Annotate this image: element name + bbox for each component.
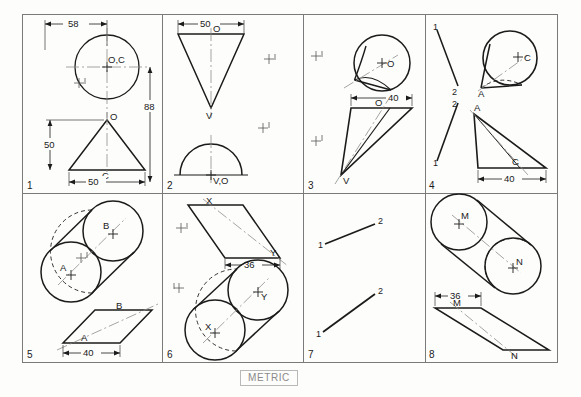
panel6-label-X-top: X — [206, 195, 213, 206]
panel-number-7: 7 — [308, 349, 314, 360]
panel4-label-1-bottom: 1 — [433, 158, 438, 168]
panel1-label-OC: O,C — [108, 54, 125, 65]
dim-50-vertical-text: 50 — [44, 139, 55, 150]
drawing-sheet: 1 2 3 4 5 6 7 8 58 O,C — [0, 0, 581, 397]
panel3-label-O-top: O — [387, 58, 394, 69]
panel4-label-C-top: C — [524, 52, 531, 63]
metric-label: METRIC — [240, 370, 298, 386]
panel7-label-1-top: 1 — [318, 240, 323, 250]
panel4-label-A-top: A — [478, 88, 485, 99]
panel2-label-V: V — [206, 110, 213, 121]
panel4-label-A-front: A — [474, 102, 481, 113]
panel8-label-M-front: M — [453, 297, 461, 308]
panel2-label-VO: V,O — [213, 175, 229, 186]
panel4-label-C-front: C — [512, 156, 519, 167]
dim-50-base-text: 50 — [88, 176, 99, 187]
panel7-label-1-bottom: 1 — [316, 329, 321, 339]
panel8-label-N-top: N — [516, 256, 523, 267]
panel6-label-X-front: X — [205, 321, 212, 332]
panel5-label-B-front: B — [116, 300, 122, 311]
dim-88-text: 88 — [144, 101, 155, 112]
panel5-label-A-front: A — [81, 332, 88, 343]
panel1-label-O: O — [110, 111, 117, 122]
panel8-label-M-top: M — [461, 210, 469, 221]
panel-number-6: 6 — [167, 349, 173, 360]
dim-40-p3-text: 40 — [388, 92, 399, 103]
panel5-label-B-top: B — [103, 220, 109, 231]
dim-58-text: 58 — [68, 18, 79, 29]
panel6-label-Y-front: Y — [261, 291, 268, 302]
panel-number-1: 1 — [27, 180, 33, 191]
dim-50-p2-text: 50 — [200, 18, 211, 29]
panel3-label-V: V — [343, 175, 350, 186]
panel8-label-N-front: N — [511, 350, 518, 361]
panel-number-5: 5 — [27, 349, 33, 360]
panel-number-8: 8 — [429, 349, 435, 360]
dim-40-p5-text: 40 — [83, 347, 94, 358]
panel4-label-2-bottom: 2 — [452, 99, 457, 109]
panel7-label-2-bottom: 2 — [378, 286, 383, 296]
dim-40-p4-text: 40 — [504, 173, 515, 184]
panel2-label-O: O — [213, 23, 220, 34]
panel6-label-Y-top: Y — [270, 247, 277, 258]
panel7-label-2-top: 2 — [378, 216, 383, 226]
panel4-label-1-top: 1 — [433, 22, 438, 32]
panel-number-4: 4 — [429, 180, 435, 191]
panel4-label-2-top: 2 — [452, 87, 457, 97]
panel5-label-A-top: A — [60, 262, 67, 273]
panel3-label-O-front: O — [375, 97, 382, 108]
panel-number-2: 2 — [167, 180, 173, 191]
panel-number-3: 3 — [308, 180, 314, 191]
